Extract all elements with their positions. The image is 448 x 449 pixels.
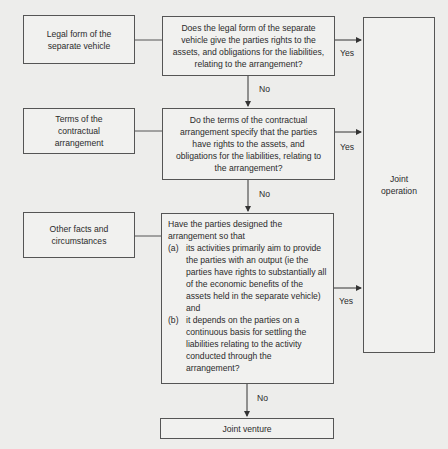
outcome-joint-venture-label: Joint venture: [222, 423, 271, 435]
factor-contract-terms-box: Terms of the contractual arrangement: [23, 108, 135, 154]
edge-label-yes-1: Yes: [340, 48, 354, 58]
question-3-box: Have the parties designed the arrangemen…: [161, 213, 334, 384]
flowchart-canvas: Legal form of the separate vehicle Terms…: [0, 0, 448, 449]
question-1-box: Does the legal form of the separate vehi…: [162, 16, 335, 76]
question-2-text: Do the terms of the contractual arrangem…: [171, 114, 326, 174]
outcome-joint-venture-box: Joint venture: [160, 418, 334, 439]
outcome-joint-operation-box: Joint operation: [363, 17, 435, 353]
question-3-item-a-text: its activities primarily aim to provide …: [186, 242, 327, 314]
edge-label-yes-2: Yes: [340, 142, 354, 152]
factor-other-facts-box: Other facts and circumstances: [23, 212, 135, 258]
question-3-item-b: (b) it depends on the parties on a conti…: [168, 314, 327, 374]
edge-label-no-3: No: [257, 393, 268, 403]
factor-legal-form-label: Legal form of the separate vehicle: [40, 28, 118, 52]
edge-label-yes-3: Yes: [339, 296, 353, 306]
factor-contract-terms-label: Terms of the contractual arrangement: [42, 113, 116, 149]
outcome-joint-operation-label: Joint operation: [379, 173, 419, 197]
question-3-intro: Have the parties designed the arrangemen…: [168, 218, 327, 242]
question-1-text: Does the legal form of the separate vehi…: [168, 22, 329, 70]
edge-label-no-2: No: [259, 189, 270, 199]
factor-legal-form-box: Legal form of the separate vehicle: [23, 15, 135, 64]
question-3-item-a-mark: (a): [168, 242, 186, 314]
question-2-box: Do the terms of the contractual arrangem…: [162, 108, 335, 180]
question-3-item-b-text: it depends on the parties on a continuou…: [186, 314, 327, 374]
factor-other-facts-label: Other facts and circumstances: [42, 223, 116, 247]
edge-label-no-1: No: [259, 84, 270, 94]
question-3-item-b-mark: (b): [168, 314, 186, 374]
question-3-item-a: (a) its activities primarily aim to prov…: [168, 242, 327, 314]
